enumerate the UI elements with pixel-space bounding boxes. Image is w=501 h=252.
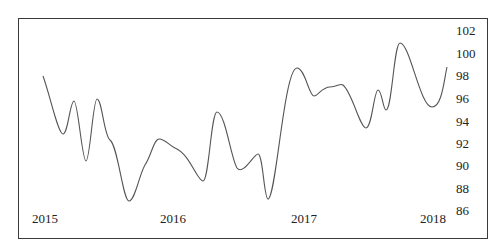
y-tick-label: 96	[456, 92, 469, 105]
y-tick-label: 90	[456, 159, 469, 172]
y-tick-label: 100	[456, 47, 476, 60]
x-tick-label: 2017	[291, 212, 317, 225]
y-tick-label: 88	[456, 182, 469, 195]
series-line	[43, 43, 447, 201]
y-tick-label: 92	[456, 137, 469, 150]
y-tick-label: 98	[456, 69, 469, 82]
y-tick-label: 102	[456, 24, 476, 37]
x-tick-label: 2018	[420, 212, 446, 225]
x-tick-label: 2016	[160, 212, 186, 225]
x-tick-label: 2015	[32, 212, 58, 225]
y-tick-label: 94	[456, 115, 469, 128]
y-tick-label: 86	[456, 204, 469, 217]
